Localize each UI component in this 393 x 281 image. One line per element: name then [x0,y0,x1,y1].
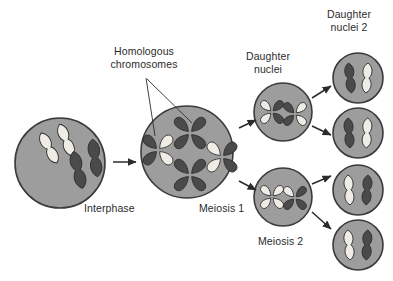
cells-layer [15,53,383,270]
cell-daughter-nuclei-2-b [333,108,383,158]
label-interphase: Interphase [84,202,146,215]
label-meiosis-2: Meiosis 2 [258,235,314,248]
label-meiosis-1: Meiosis 1 [199,202,255,215]
diagram-canvas [0,0,393,281]
arrow-meiosis1-to-daughter-top [239,120,256,128]
meiosis-diagram: Homologous chromosomesDaughter nucleiDau… [0,0,393,281]
cell-daughter-nucleus-top [254,83,312,141]
cell-daughter-nucleus-bottom [254,168,312,226]
arrow-daughter-bottom-to-d2c [312,176,331,184]
cell-daughter-nuclei-2-a [333,53,383,103]
arrow-meiosis1-to-daughter-bottom [239,181,256,190]
label-daughter-nuclei: Daughter nuclei [233,50,303,75]
arrow-daughter-top-to-d2b [312,126,331,135]
arrow-daughter-bottom-to-d2d [312,212,331,229]
cell-interphase [15,118,105,208]
label-daughter-nuclei-2: Daughter nuclei 2 [313,8,385,33]
arrow-daughter-top-to-d2a [312,86,331,98]
cell-daughter-nuclei-2-d [333,220,383,270]
label-homologous-chromosomes: Homologous chromosomes [88,45,200,70]
cell-daughter-nuclei-2-c [333,165,383,215]
